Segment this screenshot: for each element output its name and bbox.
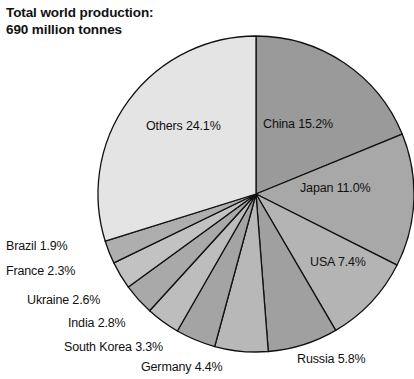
pie-label-usa: USA 7.4%	[310, 255, 366, 269]
pie-label-ukraine: Ukraine 2.6%	[27, 293, 100, 307]
pie-label-russia: Russia 5.8%	[297, 352, 366, 366]
pie-label-france: France 2.3%	[6, 264, 75, 278]
pie-chart-figure: Total world production: 690 million tonn…	[0, 0, 414, 379]
pie-label-china: China 15.2%	[263, 117, 333, 131]
pie-label-india: India 2.8%	[68, 316, 126, 330]
pie-label-others: Others 24.1%	[146, 119, 221, 133]
pie-label-brazil: Brazil 1.9%	[6, 239, 68, 253]
pie-label-japan: Japan 11.0%	[300, 181, 370, 195]
pie-label-south-korea: South Korea 3.3%	[64, 340, 163, 354]
pie-label-germany: Germany 4.4%	[141, 360, 223, 374]
